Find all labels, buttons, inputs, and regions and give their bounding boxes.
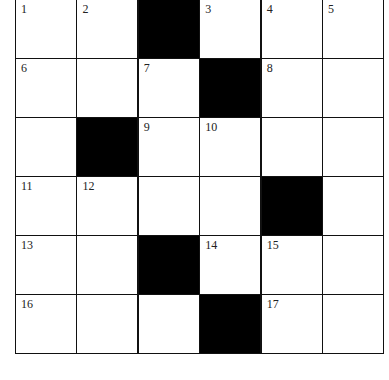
grid-cell[interactable]: 11: [16, 177, 76, 235]
clue-number: 7: [144, 62, 150, 74]
grid-cell[interactable]: 9: [139, 118, 199, 176]
clue-number: 17: [267, 298, 279, 310]
grid-cell[interactable]: 14: [200, 236, 260, 294]
grid-cell[interactable]: [139, 177, 199, 235]
grid-cell[interactable]: 4: [262, 0, 322, 58]
grid-cell[interactable]: 8: [262, 59, 322, 117]
clue-number: 4: [267, 3, 273, 15]
grid-cell[interactable]: [77, 295, 137, 353]
clue-number: 8: [267, 62, 273, 74]
grid-cell[interactable]: [139, 295, 199, 353]
crossword-grid: 1 2 3 4 5 6 7 8 9 10 11 12 13 14 15 16 1…: [15, 0, 384, 354]
grid-cell[interactable]: 5: [323, 0, 383, 58]
clue-number: 10: [205, 121, 217, 133]
grid-cell[interactable]: 10: [200, 118, 260, 176]
clue-number: 6: [21, 62, 27, 74]
grid-cell[interactable]: [262, 118, 322, 176]
grid-cell[interactable]: 2: [77, 0, 137, 58]
grid-cell[interactable]: [323, 118, 383, 176]
grid-cell[interactable]: [16, 118, 76, 176]
clue-number: 3: [205, 3, 211, 15]
grid-cell[interactable]: [323, 59, 383, 117]
grid-cell[interactable]: [77, 236, 137, 294]
clue-number: 2: [82, 3, 88, 15]
grid-cell[interactable]: 16: [16, 295, 76, 353]
grid-cell[interactable]: [323, 295, 383, 353]
black-cell: [200, 295, 260, 353]
black-cell: [139, 0, 199, 58]
grid-cell[interactable]: 1: [16, 0, 76, 58]
clue-number: 9: [144, 121, 150, 133]
black-cell: [200, 59, 260, 117]
grid-cell[interactable]: [200, 177, 260, 235]
grid-cell[interactable]: [323, 177, 383, 235]
clue-number: 5: [328, 3, 334, 15]
grid-cell[interactable]: [77, 59, 137, 117]
grid-cell[interactable]: [323, 236, 383, 294]
clue-number: 1: [21, 3, 27, 15]
black-cell: [139, 236, 199, 294]
grid-cell[interactable]: 7: [139, 59, 199, 117]
clue-number: 16: [21, 298, 33, 310]
grid-cell[interactable]: 12: [77, 177, 137, 235]
grid-cell[interactable]: 3: [200, 0, 260, 58]
clue-number: 14: [205, 239, 217, 251]
clue-number: 13: [21, 239, 33, 251]
black-cell: [262, 177, 322, 235]
clue-number: 11: [21, 180, 33, 192]
grid-cell[interactable]: 13: [16, 236, 76, 294]
clue-number: 15: [267, 239, 279, 251]
grid-cell[interactable]: 6: [16, 59, 76, 117]
grid-cell[interactable]: 15: [262, 236, 322, 294]
grid-cell[interactable]: 17: [262, 295, 322, 353]
clue-number: 12: [82, 180, 94, 192]
black-cell: [77, 118, 137, 176]
